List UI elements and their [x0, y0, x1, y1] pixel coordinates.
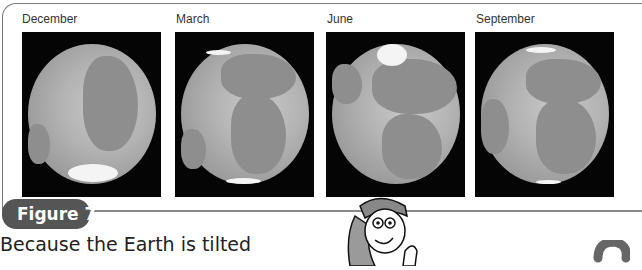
cartoon-girl-icon	[335, 196, 425, 266]
globe-december-image	[22, 32, 161, 197]
body-paragraph: Because the Earth is tilted	[0, 233, 251, 255]
globe-september	[481, 44, 609, 184]
antarctica-ice	[68, 164, 118, 182]
south-america-landmass	[181, 129, 206, 169]
panel-label-march: March	[176, 12, 209, 26]
europe-landmass	[526, 59, 601, 104]
arctic-ice	[206, 50, 231, 55]
north-america-landmass	[332, 64, 362, 104]
africa-landmass	[83, 56, 138, 151]
globe-march	[181, 44, 309, 184]
africa-landmass	[231, 94, 286, 174]
panel-label-september: September	[476, 12, 535, 26]
question-mark-icon	[590, 240, 630, 270]
globe-september-image	[475, 32, 614, 197]
africa-landmass	[382, 114, 442, 179]
south-america-landmass	[28, 124, 50, 164]
globe-march-image	[175, 32, 314, 197]
globe-june	[332, 44, 460, 184]
europe-asia-landmass	[372, 59, 457, 114]
globe-june-image	[326, 32, 465, 197]
figure-label: Figure 7	[17, 204, 96, 224]
greenland-ice	[377, 44, 407, 66]
africa-landmass	[536, 99, 596, 174]
figure-divider	[2, 210, 642, 212]
panel-label-june: June	[327, 12, 353, 26]
antarctica-ice	[536, 180, 561, 184]
antarctica-ice	[226, 178, 261, 184]
europe-landmass	[221, 54, 296, 99]
arctic-ice	[526, 47, 556, 53]
globe-december	[28, 44, 156, 184]
south-america-landmass	[481, 99, 509, 154]
panel-label-december: December	[22, 12, 77, 26]
